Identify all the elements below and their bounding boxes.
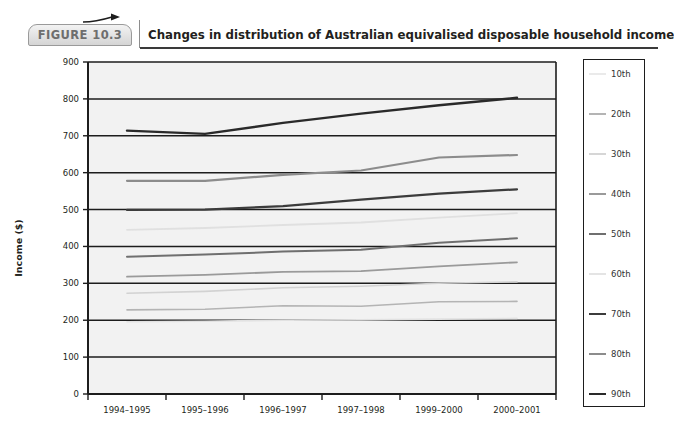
figure-header: FIGURE 10.3 Changes in distribution of A… bbox=[0, 0, 665, 52]
x-axis-tick-label: 1995–1996 bbox=[181, 405, 229, 414]
figure-number-badge: FIGURE 10.3 bbox=[28, 24, 132, 46]
legend-swatch-50th bbox=[589, 233, 606, 235]
y-axis-tick-label: 500 bbox=[63, 205, 79, 215]
legend-swatch-80th bbox=[589, 353, 606, 355]
x-axis-tick-label: 2000–2001 bbox=[493, 405, 541, 414]
y-axis-tick-label: 800 bbox=[63, 94, 79, 104]
legend-label-50th: 50th bbox=[611, 229, 631, 239]
y-axis-tick-label: 900 bbox=[63, 57, 79, 67]
header-rule bbox=[140, 47, 658, 49]
x-axis-tick-label: 1999–2000 bbox=[415, 405, 463, 414]
legend-swatch-20th bbox=[589, 113, 606, 115]
legend-label-40th: 40th bbox=[611, 189, 631, 199]
y-axis-tick-label: 600 bbox=[63, 168, 79, 178]
y-axis-tick-label: 0 bbox=[74, 389, 79, 399]
y-axis-tick-labels: 0100200300400500600700800900 bbox=[63, 57, 79, 399]
y-axis-title: Income ($) bbox=[13, 219, 24, 276]
legend-label-10th: 10th bbox=[611, 69, 631, 79]
y-axis-tick-label: 300 bbox=[63, 278, 79, 288]
legend-item-30th[interactable]: 30th bbox=[584, 147, 646, 161]
y-axis-tick-label: 100 bbox=[63, 352, 79, 362]
x-axis-tick-labels: 1994–19951995–19961996–19971997–19981999… bbox=[103, 405, 541, 414]
legend-label-30th: 30th bbox=[611, 149, 631, 159]
legend-item-70th[interactable]: 70th bbox=[584, 307, 646, 321]
legend-swatch-90th bbox=[589, 393, 606, 395]
legend-swatch-10th bbox=[589, 73, 606, 75]
legend-item-20th[interactable]: 20th bbox=[584, 107, 646, 121]
x-axis-tick-label: 1997–1998 bbox=[337, 405, 385, 414]
x-axis-tick-label: 1994–1995 bbox=[103, 405, 151, 414]
legend-swatch-60th bbox=[589, 273, 606, 275]
x-axis-tick-label: 1996–1997 bbox=[259, 405, 307, 414]
header-divider bbox=[139, 20, 140, 48]
legend-item-50th[interactable]: 50th bbox=[584, 227, 646, 241]
legend-item-90th[interactable]: 90th bbox=[584, 387, 646, 401]
legend-label-20th: 20th bbox=[611, 109, 631, 119]
chart-container: 0100200300400500600700800900 1994–199519… bbox=[0, 52, 665, 422]
legend-label-80th: 80th bbox=[611, 349, 631, 359]
y-axis-tick-label: 400 bbox=[63, 241, 79, 251]
legend-item-40th[interactable]: 40th bbox=[584, 187, 646, 201]
legend-swatch-40th bbox=[589, 193, 606, 195]
legend-swatch-70th bbox=[589, 313, 606, 315]
y-axis-tick-label: 200 bbox=[63, 315, 79, 325]
line-chart: 0100200300400500600700800900 1994–199519… bbox=[0, 52, 665, 414]
legend-item-60th[interactable]: 60th bbox=[584, 267, 646, 281]
legend-label-60th: 60th bbox=[611, 269, 631, 279]
legend-label-70th: 70th bbox=[611, 309, 631, 319]
plot-background bbox=[88, 62, 556, 394]
legend-swatch-30th bbox=[589, 153, 606, 155]
figure-number-label: FIGURE 10.3 bbox=[38, 28, 122, 42]
chart-legend: 10th20th30th40th50th60th70th80th90th bbox=[583, 59, 645, 407]
legend-label-90th: 90th bbox=[611, 389, 631, 399]
legend-item-10th[interactable]: 10th bbox=[584, 67, 646, 81]
figure-title: Changes in distribution of Australian eq… bbox=[148, 24, 674, 46]
legend-item-80th[interactable]: 80th bbox=[584, 347, 646, 361]
y-axis-tick-label: 700 bbox=[63, 131, 79, 141]
